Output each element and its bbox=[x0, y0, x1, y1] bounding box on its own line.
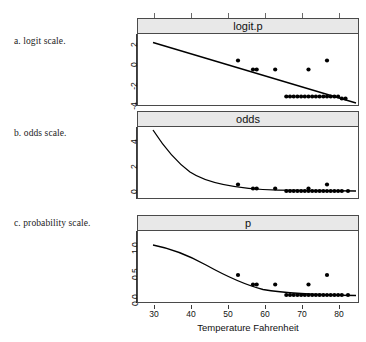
panel-c-y-axis: 1.0 0.5 0.0 bbox=[113, 231, 137, 303]
caption-a: a. logit scale. bbox=[14, 36, 66, 46]
panel-probability-plot bbox=[137, 231, 359, 303]
panel-b-y-axis: 4 2 0 bbox=[113, 127, 137, 199]
panel-logit-plot bbox=[137, 34, 359, 106]
panel-logit: logit.p bbox=[137, 18, 359, 106]
x-axis: 30 40 50 60 70 80 bbox=[137, 305, 359, 319]
panel-probability-fit-curve bbox=[153, 245, 356, 296]
panel-a-y-axis: 2 0 -2 -4 bbox=[113, 34, 137, 106]
caption-c: c. probability scale. bbox=[14, 218, 91, 228]
panel-probability-svg bbox=[138, 231, 358, 301]
xtick-80: 80 bbox=[334, 310, 343, 319]
panel-probability-strip: p bbox=[137, 215, 359, 231]
panel-probability: p bbox=[137, 215, 359, 303]
panel-probability-title: p bbox=[245, 218, 251, 229]
xtick-30: 30 bbox=[149, 310, 158, 319]
panel-odds-points bbox=[236, 182, 350, 193]
xtick-60: 60 bbox=[260, 310, 269, 319]
panel-logit-points bbox=[236, 58, 348, 100]
panel-logit-strip: logit.p bbox=[137, 18, 359, 34]
panel-logit-title: logit.p bbox=[233, 21, 262, 32]
panel-probability-points bbox=[236, 273, 350, 297]
panel-odds-svg bbox=[138, 127, 358, 197]
panel-odds: odds bbox=[137, 111, 359, 199]
panel-logit-svg bbox=[138, 34, 358, 104]
caption-b: b. odds scale. bbox=[14, 128, 67, 138]
panel-odds-title: odds bbox=[236, 114, 260, 125]
x-axis-title: Temperature Fahrenheit bbox=[137, 322, 359, 333]
panel-logit-fit-line bbox=[153, 43, 356, 104]
panel-odds-fit-curve bbox=[153, 130, 356, 191]
figure-container: p p p logit a. logit scale. b. odds scal… bbox=[0, 0, 366, 342]
xtick-40: 40 bbox=[186, 310, 195, 319]
xtick-70: 70 bbox=[297, 310, 306, 319]
panel-odds-strip: odds bbox=[137, 111, 359, 127]
xtick-50: 50 bbox=[223, 310, 232, 319]
panel-odds-plot bbox=[137, 127, 359, 199]
